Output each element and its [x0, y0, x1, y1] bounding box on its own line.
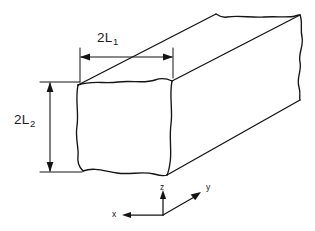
top-face-right-long-edge: [172, 15, 300, 81]
far-end-side-broken-edge: [298, 15, 302, 100]
front-face-left-edge: [76, 85, 83, 171]
dimension-label-height-base: 2L: [14, 112, 29, 127]
far-end-top-broken-edge: [216, 14, 300, 17]
width-arrow-left-icon: [80, 54, 90, 61]
axis-label-y: y: [206, 183, 210, 192]
dimension-label-height: 2L2: [14, 113, 35, 129]
width-arrow-right-icon: [163, 54, 173, 61]
coordinate-axes: [122, 190, 201, 218]
axis-y-arrow-icon: [191, 192, 201, 200]
dimension-height-2L2: [40, 82, 82, 172]
axis-y-line: [163, 196, 196, 215]
top-face-left-long-edge: [78, 14, 216, 85]
prism-diagram-svg: [0, 0, 315, 231]
dimension-label-width: 2L1: [97, 31, 118, 47]
bottom-long-edge: [167, 100, 300, 175]
front-face-right-edge: [167, 81, 172, 175]
axis-label-x: x: [112, 210, 116, 219]
front-face-bottom-edge: [83, 169, 167, 175]
front-face-top-edge: [78, 78, 172, 85]
axis-x-arrow-icon: [122, 212, 131, 218]
dimension-label-width-subscript: 1: [112, 36, 118, 47]
figure-container: 2L1 2L2 z y x: [0, 0, 315, 231]
dimension-label-width-base: 2L: [97, 30, 112, 45]
height-arrow-bottom-icon: [47, 162, 54, 172]
dimension-label-height-subscript: 2: [29, 118, 35, 129]
height-arrow-top-icon: [47, 82, 54, 92]
axis-label-z: z: [160, 183, 164, 192]
